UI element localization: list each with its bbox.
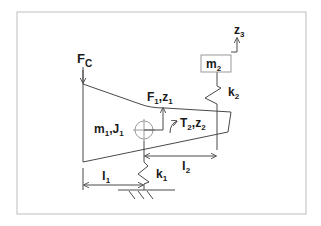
force-c-label: FC — [77, 51, 92, 69]
length-1-label: l1 — [102, 168, 111, 185]
mechanical-diagram: FC F1,z1 m1,J1 T2,z2 k2 m2 z3 k1 — [0, 0, 321, 226]
diagram-frame — [17, 12, 306, 214]
body-1-label: m1,J1 — [94, 122, 124, 138]
force-1-arrow — [144, 108, 163, 130]
spring-1-label: k1 — [156, 167, 168, 183]
ground-support — [118, 190, 175, 199]
spring-2-label: k2 — [228, 85, 240, 101]
torque-2-arrow — [170, 121, 177, 133]
force-1-label: F1,z1 — [147, 90, 173, 106]
length-2-label: l2 — [182, 158, 191, 175]
disp-3-label: z3 — [234, 23, 245, 39]
torque-2-label: T2,z2 — [180, 116, 206, 132]
disp-3-arrow — [231, 38, 237, 52]
beam-body — [83, 70, 231, 162]
